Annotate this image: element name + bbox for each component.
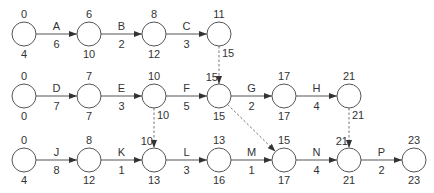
event-node — [142, 84, 166, 108]
latest-time-label: 4 — [21, 174, 27, 186]
activity-duration-label: 2 — [118, 38, 124, 50]
earliest-time-label: 15 — [278, 134, 290, 146]
dummy-start-label: 15 — [222, 47, 234, 59]
event-node — [142, 22, 166, 46]
dummy-arrows — [154, 46, 349, 152]
activity-network-diagram: A6B2C3D7E3F5G2H4J8K1L3M1N4P2151510102121… — [0, 0, 434, 193]
latest-time-label: 13 — [148, 174, 160, 186]
latest-time-label: 15 — [213, 110, 225, 122]
event-node — [77, 84, 101, 108]
earliest-time-label: 8 — [151, 8, 157, 20]
activity-name-label: D — [53, 82, 61, 94]
activity-name-label: K — [118, 146, 126, 158]
latest-time-label: 10 — [83, 48, 95, 60]
activity-name-label: L — [183, 146, 189, 158]
activity-duration-label: 3 — [118, 100, 124, 112]
earliest-time-label: 6 — [86, 8, 92, 20]
earliest-time-label: 0 — [21, 134, 27, 146]
dummy-end-label: 10 — [141, 135, 153, 147]
activity-duration-label: 6 — [53, 38, 59, 50]
latest-time-label: 23 — [408, 174, 420, 186]
event-node — [77, 148, 101, 172]
latest-time-label: 21 — [343, 174, 355, 186]
activity-duration-label: 1 — [248, 164, 254, 176]
event-node — [12, 148, 36, 172]
activity-name-label: A — [53, 20, 61, 32]
activity-duration-label: 5 — [183, 100, 189, 112]
earliest-time-label: 23 — [408, 134, 420, 146]
event-node — [272, 148, 296, 172]
activity-duration-label: 3 — [183, 38, 189, 50]
activity-duration-label: 8 — [53, 164, 59, 176]
event-node — [207, 22, 231, 46]
event-node — [142, 148, 166, 172]
event-node — [12, 84, 36, 108]
dummy-end-label: 21 — [336, 135, 348, 147]
event-nodes — [12, 22, 426, 172]
activity-duration-label: 3 — [183, 164, 189, 176]
activity-duration-label: 2 — [248, 100, 254, 112]
dummy-start-label: 10 — [157, 109, 169, 121]
latest-time-label: 12 — [148, 48, 160, 60]
earliest-time-label: 10 — [148, 70, 160, 82]
earliest-time-label: 8 — [86, 134, 92, 146]
event-node — [207, 84, 231, 108]
activity-name-label: N — [313, 146, 321, 158]
event-node — [337, 148, 361, 172]
latest-time-label: 17 — [278, 174, 290, 186]
earliest-time-label: 13 — [213, 134, 225, 146]
latest-time-label: 12 — [83, 174, 95, 186]
activity-name-label: E — [118, 82, 125, 94]
event-node — [272, 84, 296, 108]
activity-name-label: F — [183, 82, 190, 94]
event-node — [12, 22, 36, 46]
activity-name-label: G — [247, 82, 256, 94]
activity-duration-label: 1 — [118, 164, 124, 176]
activity-duration-label: 7 — [53, 100, 59, 112]
latest-time-label: 4 — [21, 48, 27, 60]
earliest-time-label: 0 — [21, 8, 27, 20]
activity-duration-label: 4 — [313, 164, 319, 176]
activity-name-label: B — [118, 20, 125, 32]
activity-name-label: P — [378, 146, 385, 158]
dummy-end-label: 15 — [206, 71, 218, 83]
activity-name-label: C — [183, 20, 191, 32]
latest-time-label: 0 — [21, 110, 27, 122]
event-node — [402, 148, 426, 172]
activity-name-label: H — [313, 82, 321, 94]
event-node — [207, 148, 231, 172]
activity-name-label: M — [247, 146, 256, 158]
event-node — [77, 22, 101, 46]
earliest-time-label: 7 — [86, 70, 92, 82]
activity-duration-label: 4 — [313, 100, 319, 112]
earliest-time-label: 11 — [213, 8, 224, 20]
activity-duration-label: 2 — [378, 164, 384, 176]
latest-time-label: 16 — [213, 174, 225, 186]
latest-time-label: 17 — [278, 110, 290, 122]
activity-name-label: J — [54, 146, 60, 158]
earliest-time-label: 0 — [21, 70, 27, 82]
event-node — [337, 84, 361, 108]
latest-time-label: 7 — [86, 110, 92, 122]
earliest-time-label: 17 — [278, 70, 290, 82]
dummy-start-label: 21 — [352, 109, 364, 121]
earliest-time-label: 21 — [343, 70, 355, 82]
